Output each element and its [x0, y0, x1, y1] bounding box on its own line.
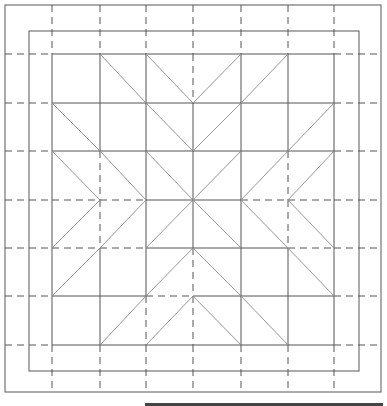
diagonal-seam	[146, 151, 193, 200]
diagonal-seam	[52, 103, 100, 151]
diagonal-seam	[146, 200, 193, 248]
diagonal-seam	[52, 200, 100, 248]
diagonal-seam	[146, 103, 193, 151]
quilt-diagram	[0, 0, 387, 406]
diagonal-seam	[193, 103, 241, 151]
diagonal-seam	[193, 151, 241, 200]
diagonal-seam	[288, 248, 334, 296]
diagonal-seam	[100, 54, 146, 103]
diagonal-seam	[288, 103, 334, 151]
diagonal-seam	[193, 54, 241, 103]
diagonal-seam	[193, 296, 241, 345]
diagonal-seam	[241, 151, 288, 200]
diagonal-seam	[146, 54, 193, 103]
diagonal-seam	[241, 296, 288, 345]
diagonal-seam	[193, 200, 241, 248]
diagonal-seam	[241, 54, 288, 103]
diagonal-seam	[288, 200, 334, 248]
diagonal-seam	[241, 200, 288, 248]
diagonal-seam	[146, 248, 193, 296]
diagonal-seam	[100, 296, 146, 345]
diagonal-seam	[193, 248, 241, 296]
diagonal-seam	[52, 248, 100, 296]
diagonal-seam	[100, 200, 146, 248]
diagonal-seam	[52, 151, 100, 200]
diagonal-seam	[100, 151, 146, 200]
diagonal-seam	[288, 151, 334, 200]
diagonal-seam	[146, 296, 193, 345]
